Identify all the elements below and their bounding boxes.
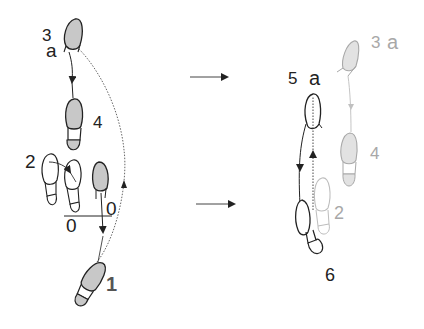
label-step-5-count: a: [309, 68, 320, 88]
label-zero-right: 0: [106, 199, 117, 218]
dotted-arc-1-to-3: [78, 48, 125, 262]
label-step-4: 4: [93, 114, 102, 131]
foot-middle-outline: [65, 160, 81, 212]
foot-shaded-toe: [93, 162, 109, 199]
foot-step-4: [66, 99, 83, 150]
label-zero-left: 0: [66, 216, 77, 235]
label-step-1: 1: [106, 274, 117, 294]
foot-step-2-outline: [42, 154, 58, 205]
label-ghost-step-3: 3: [371, 34, 380, 51]
ghost-foot-step-3: [337, 41, 359, 76]
foot-step-3-toe: [64, 19, 82, 52]
foot-step-5-toe: [305, 94, 322, 129]
label-ghost-step-2: 2: [334, 204, 344, 222]
dance-step-diagram: 3 a 4 2 0 0 1 5 a 3 a 4 2 6: [0, 0, 424, 329]
arrow-3-to-4: [69, 52, 72, 82]
ghost-foot-step-4: [341, 133, 357, 186]
label-step-3-count: a: [46, 41, 57, 60]
label-step-5: 5: [288, 70, 297, 87]
label-step-2: 2: [25, 152, 36, 171]
arrow-to-step-1: [101, 193, 103, 232]
label-ghost-step-3-count: a: [387, 32, 398, 52]
label-ghost-step-4: 4: [370, 145, 379, 162]
diagram-canvas: [0, 0, 424, 329]
foot-step-1: [71, 258, 109, 309]
ghost-foot-step-2: [314, 178, 330, 234]
label-step-6: 6: [325, 266, 335, 284]
